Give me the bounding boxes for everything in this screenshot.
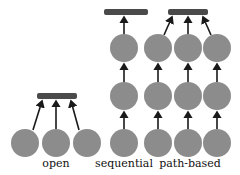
node — [174, 34, 202, 62]
arrow — [203, 17, 211, 35]
node — [110, 129, 138, 157]
node — [42, 129, 70, 157]
group-open — [11, 93, 101, 157]
node — [110, 82, 138, 110]
node — [203, 82, 231, 110]
aggregator-bar — [104, 9, 148, 15]
node — [11, 129, 39, 157]
arrow — [71, 101, 79, 130]
aggregator-bar — [168, 9, 208, 15]
aggregator-bar — [37, 93, 77, 99]
node — [174, 129, 202, 157]
node — [144, 34, 172, 62]
label-sequential: sequential — [95, 157, 153, 170]
node — [203, 129, 231, 157]
arrow — [164, 17, 172, 35]
node — [203, 34, 231, 62]
node — [144, 82, 172, 110]
diagram-canvas — [0, 0, 240, 175]
group-sequential — [104, 9, 148, 157]
node — [73, 129, 101, 157]
node — [110, 34, 138, 62]
node — [144, 129, 172, 157]
node — [174, 82, 202, 110]
label-open: open — [42, 157, 69, 170]
arrow — [33, 101, 42, 130]
group-path-based — [144, 9, 231, 157]
label-path-based: path-based — [159, 157, 221, 170]
